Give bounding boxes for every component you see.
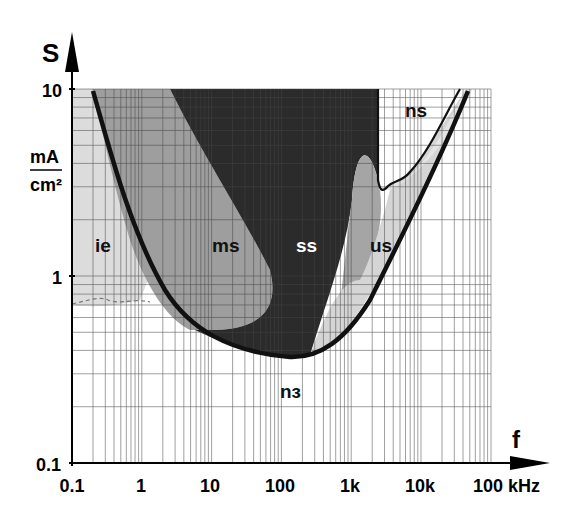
y-tick-0.1: 0.1 bbox=[36, 455, 61, 475]
label-ie: ie bbox=[95, 235, 111, 256]
x-tick: 100 kHz bbox=[473, 476, 540, 496]
x-tick: 10 bbox=[200, 476, 220, 496]
label-ss: ss bbox=[296, 235, 317, 256]
x-tick: 1 bbox=[136, 476, 146, 496]
x-tick: 10k bbox=[405, 476, 436, 496]
y-tick-10: 10 bbox=[42, 81, 62, 101]
x-tick: 100 bbox=[265, 476, 295, 496]
chart-svg: S mA cm² 10 1 0.1 f 0.1 1 10 100 1k 10k … bbox=[0, 0, 582, 518]
y-axis-arrow-icon bbox=[65, 32, 79, 72]
y-unit-denominator: cm² bbox=[30, 175, 62, 195]
label-ns: ns bbox=[405, 100, 427, 121]
x-axis-arrow-icon bbox=[510, 456, 550, 470]
label-us: us bbox=[370, 235, 392, 256]
y-unit-numerator: mA bbox=[30, 147, 59, 167]
label-n3: nз bbox=[280, 381, 301, 402]
x-tick: 1k bbox=[340, 476, 361, 496]
x-axis-title: f bbox=[512, 426, 521, 453]
label-ms: ms bbox=[212, 235, 239, 256]
x-tick: 0.1 bbox=[59, 476, 84, 496]
y-tick-1: 1 bbox=[52, 268, 62, 288]
y-axis-title: S bbox=[42, 38, 59, 68]
